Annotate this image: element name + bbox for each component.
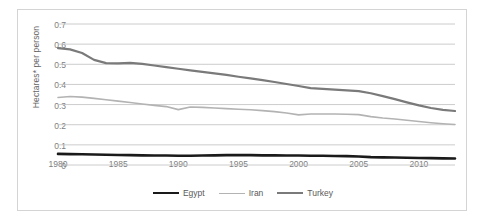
chart-plot-area xyxy=(0,0,491,220)
series-line-egypt xyxy=(58,154,455,159)
series-line-iran xyxy=(58,97,455,125)
